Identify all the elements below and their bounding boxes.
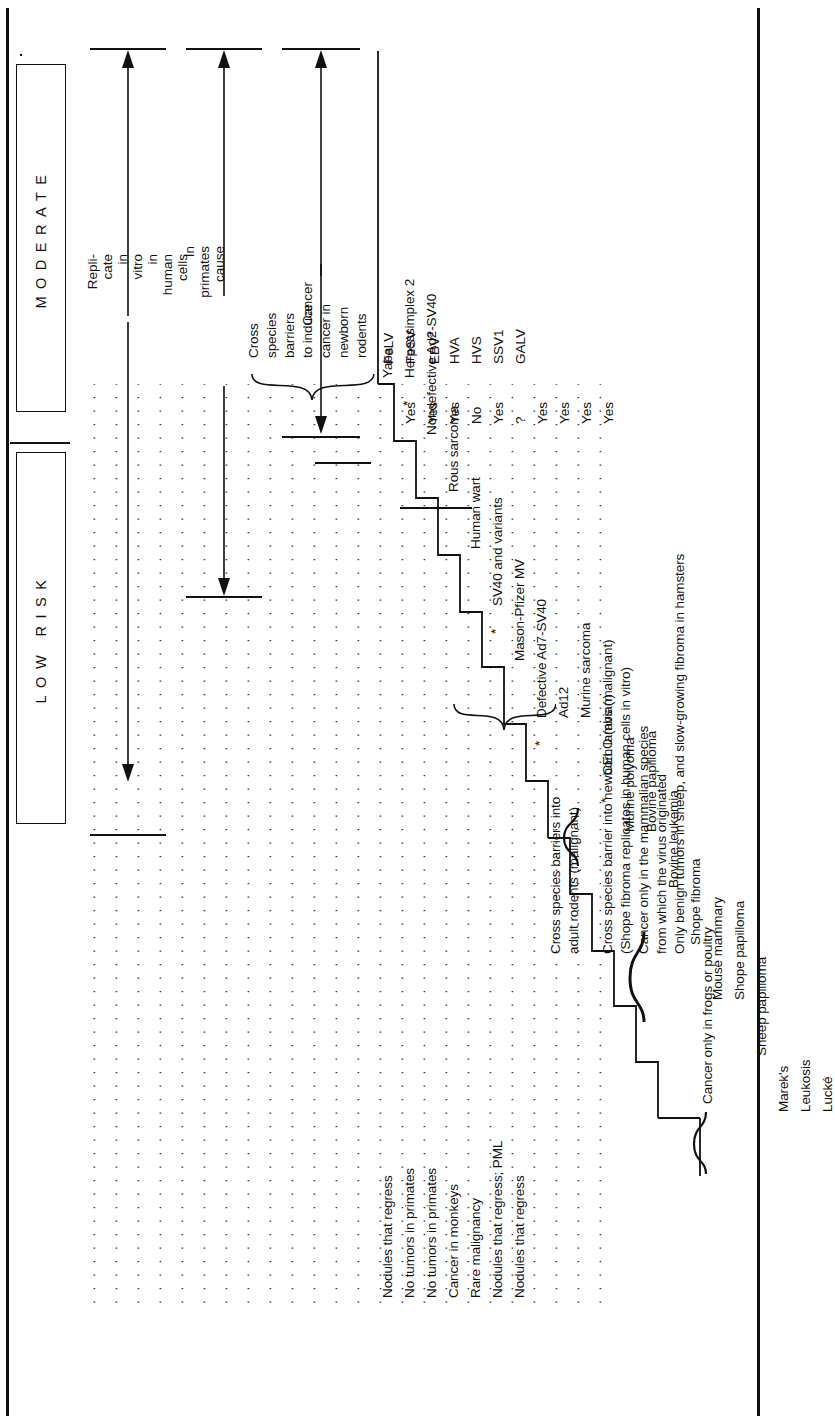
abbreviation-hva: HVA	[447, 337, 462, 364]
virus-name-label: Leukosis	[798, 1060, 813, 1112]
annotation-line: Cross species barrier into newborn lambs…	[600, 640, 615, 954]
abbreviation-ebv: EBVa	[425, 332, 442, 364]
cross-species-answer: Yes	[535, 402, 550, 424]
cross-species-brace-top	[250, 368, 376, 404]
cross-species-answer: Yes	[447, 402, 462, 424]
annotation-line: Cancer only in frogs or poultry	[700, 927, 715, 1104]
yesno-divider-lower	[400, 507, 472, 509]
annotation-line: Only benign tumors in sheep, and slow-gr…	[672, 554, 687, 954]
cross-species-caption-line: cancer in	[318, 304, 333, 358]
cross-species-caption-line: to induce	[300, 304, 315, 358]
cross-species-answer: Yes	[557, 402, 572, 424]
annotation-brace-newborn-lambs	[626, 928, 648, 1024]
annotation-line: from which the virus originated	[654, 774, 669, 954]
annotation-brace-frogs-poultry	[690, 1110, 710, 1176]
cross-species-answer: Yes	[601, 402, 616, 424]
cross-species-answer: Yes	[491, 402, 506, 424]
yesno-divider-upper	[315, 462, 371, 464]
cross-species-caption-line: newborn	[336, 307, 351, 358]
abbreviation-fesv: FeSV	[403, 330, 418, 364]
virus-name-label: Lucké	[820, 1076, 835, 1112]
cross-species-answer: ?	[513, 416, 528, 424]
abbreviation-galv: GALV	[513, 329, 528, 364]
abbreviation-hvs: HVS	[469, 336, 484, 364]
cross-species-caption-line: barriers	[282, 313, 297, 358]
abbreviation-felv: FeLV	[381, 333, 396, 364]
cross-species-brace-bottom	[452, 698, 556, 734]
cross-species-caption-line: Cross	[246, 323, 261, 358]
cross-species-answer: No	[469, 407, 484, 424]
annotation-line: Cancer only in the mammalian species	[636, 726, 651, 954]
abbreviation-ssv1: SSV1	[491, 329, 506, 364]
italic-in-vitro: in vitro	[618, 672, 633, 711]
footnote-marker: a	[425, 332, 435, 337]
annotation-line: (Shope fibroma replicates in human cells…	[618, 667, 633, 954]
annotation-brace-adult-rodents	[560, 804, 582, 868]
cross-species-caption-line: species	[264, 313, 279, 358]
virus-name-label: Marek's	[776, 1066, 791, 1112]
cross-species-caption-line: rodents	[354, 314, 369, 358]
cross-species-answer: Yes	[425, 402, 440, 424]
cross-species-answer: Yes	[579, 402, 594, 424]
cross-species-answer: Yes	[403, 402, 418, 424]
